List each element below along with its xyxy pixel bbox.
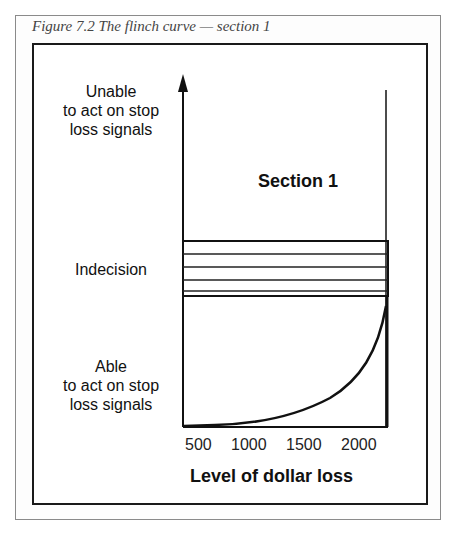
section-label: Section 1	[258, 171, 338, 192]
indecision-label: Indecision	[46, 260, 176, 279]
indecision-band	[183, 241, 388, 296]
x-tick-1000: 1000	[231, 436, 267, 454]
x-axis-label: Level of dollar loss	[190, 466, 353, 487]
x-tick-1500: 1500	[286, 436, 322, 454]
able-label: Able to act on stop loss signals	[46, 357, 176, 414]
x-tick-2000: 2000	[341, 436, 377, 454]
unable-label: Unable to act on stop loss signals	[46, 82, 176, 139]
y-axis-arrow-icon	[178, 74, 188, 92]
flinch-curve	[184, 306, 386, 426]
x-tick-500: 500	[185, 436, 212, 454]
